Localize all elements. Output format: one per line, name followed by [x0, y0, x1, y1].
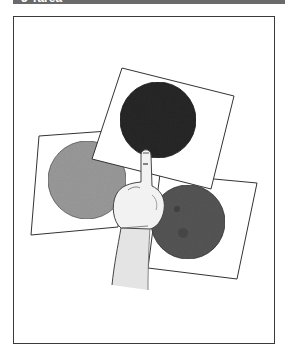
- black-circle: [120, 82, 196, 158]
- cards-illustration: [0, 0, 285, 352]
- right-card: [148, 174, 257, 279]
